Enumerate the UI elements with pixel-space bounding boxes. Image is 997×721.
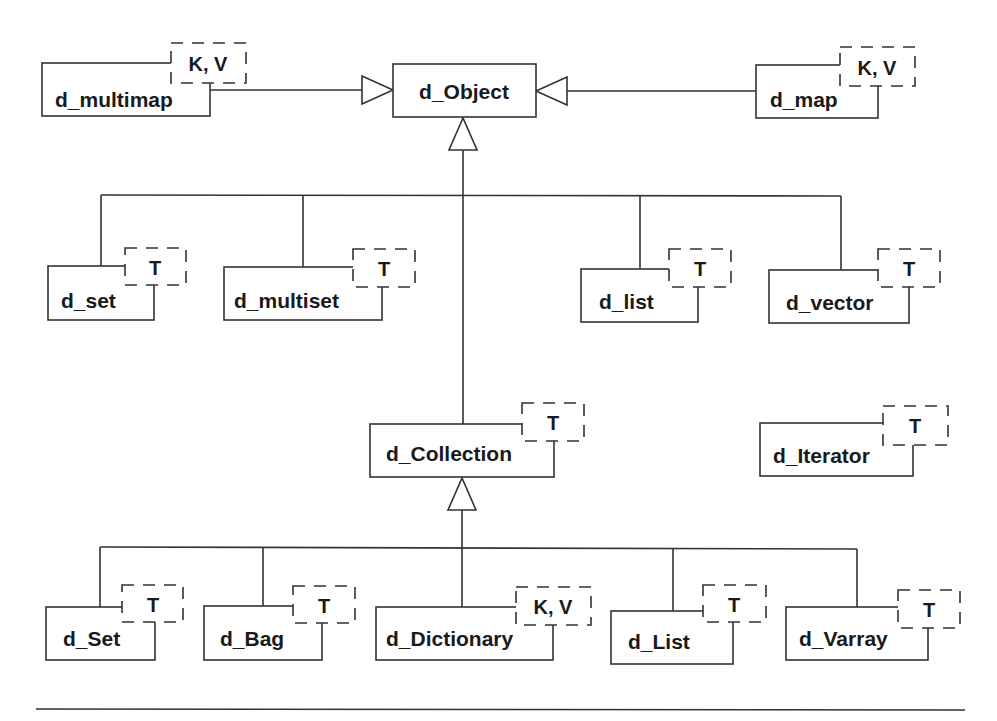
template-parameters: T bbox=[903, 258, 915, 280]
template-parameters: K, V bbox=[858, 57, 898, 79]
template-parameters: T bbox=[694, 258, 706, 280]
class-name: d_Varray bbox=[799, 627, 888, 650]
template-parameter-box: T bbox=[703, 585, 766, 622]
class-name: d_multimap bbox=[55, 88, 173, 111]
template-parameters: T bbox=[923, 599, 935, 621]
class-d-list-odmg[interactable]: d_List T bbox=[611, 585, 766, 664]
class-d-map[interactable]: d_map K, V bbox=[756, 47, 915, 118]
class-name: d_vector bbox=[786, 291, 874, 314]
class-d-dictionary[interactable]: d_Dictionary K, V bbox=[376, 587, 591, 660]
class-name: d_Collection bbox=[386, 442, 512, 465]
class-name: d_Iterator bbox=[773, 444, 870, 467]
class-d-multimap[interactable]: d_multimap K, V bbox=[42, 43, 246, 116]
template-parameter-box: T bbox=[898, 590, 960, 628]
template-parameter-box: T bbox=[293, 586, 355, 623]
class-d-set-odmg[interactable]: d_Set T bbox=[46, 585, 183, 660]
template-parameter-box: T bbox=[522, 403, 584, 441]
class-name: d_list bbox=[599, 290, 654, 313]
template-parameters: T bbox=[378, 258, 390, 280]
class-name: d_Dictionary bbox=[386, 627, 514, 650]
class-name: d_map bbox=[770, 88, 838, 111]
template-parameters: K, V bbox=[189, 53, 229, 75]
class-d-vector[interactable]: d_vector T bbox=[769, 249, 940, 323]
template-parameters: K, V bbox=[534, 596, 574, 618]
class-name: d_Object bbox=[419, 80, 509, 103]
template-parameters: T bbox=[547, 412, 559, 434]
generalization-arrow-icon bbox=[448, 478, 476, 510]
class-name: d_set bbox=[61, 289, 116, 312]
template-parameters: T bbox=[147, 594, 159, 616]
template-parameter-box: T bbox=[353, 249, 415, 287]
generalization-arrow-icon bbox=[362, 76, 393, 104]
template-parameters: T bbox=[318, 595, 330, 617]
class-name: d_Bag bbox=[220, 627, 284, 650]
uml-class-diagram: d_Object d_multimap K, V d_map K, V d_se… bbox=[0, 0, 997, 721]
class-d-multiset[interactable]: d_multiset T bbox=[224, 249, 415, 320]
class-d-bag[interactable]: d_Bag T bbox=[204, 586, 355, 660]
class-d-iterator[interactable]: d_Iterator T bbox=[760, 406, 948, 476]
template-parameter-box: T bbox=[125, 248, 186, 285]
template-parameter-box: T bbox=[883, 406, 948, 445]
class-name: d_List bbox=[628, 630, 690, 653]
class-d-list[interactable]: d_list T bbox=[581, 249, 731, 322]
template-parameter-box: K, V bbox=[516, 587, 591, 625]
generalization-arrow-icon bbox=[536, 77, 567, 105]
class-d-object[interactable]: d_Object bbox=[393, 64, 536, 117]
template-parameter-box: K, V bbox=[171, 43, 246, 83]
template-parameter-box: T bbox=[878, 249, 940, 287]
template-parameters: T bbox=[149, 257, 161, 279]
class-d-set[interactable]: d_set T bbox=[48, 248, 186, 320]
template-parameter-box: K, V bbox=[840, 47, 915, 86]
template-parameter-box: T bbox=[122, 585, 183, 622]
class-name: d_Set bbox=[63, 627, 120, 650]
template-parameters: T bbox=[909, 415, 921, 437]
class-name: d_multiset bbox=[234, 289, 339, 312]
template-parameters: T bbox=[728, 594, 740, 616]
class-d-collection[interactable]: d_Collection T bbox=[370, 403, 584, 477]
generalization-arrow-icon bbox=[449, 118, 477, 150]
template-parameter-box: T bbox=[669, 249, 731, 287]
bottom-divider bbox=[36, 709, 965, 710]
class-d-varray[interactable]: d_Varray T bbox=[786, 590, 960, 660]
